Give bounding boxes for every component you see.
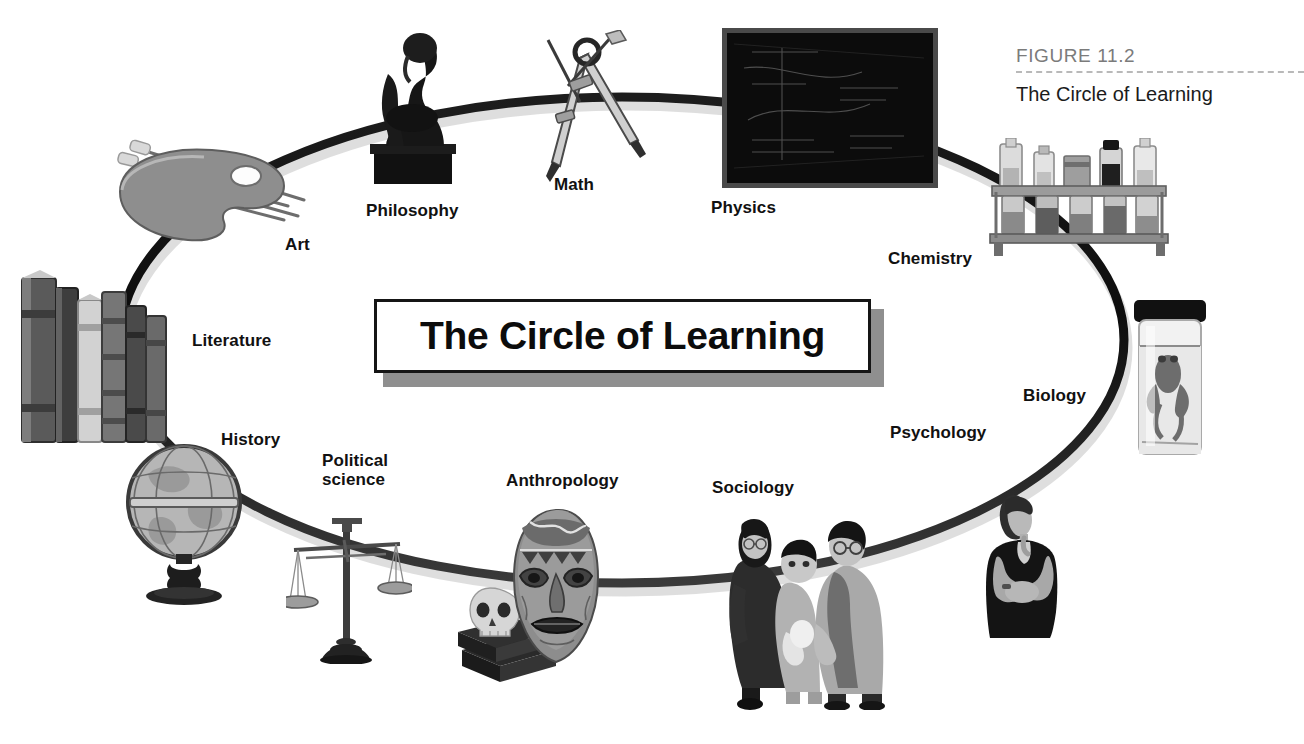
label-political-science: Political science bbox=[322, 451, 388, 489]
label-chemistry: Chemistry bbox=[888, 249, 972, 268]
label-sociology: Sociology bbox=[712, 478, 794, 497]
figure-dashed-rule bbox=[1016, 71, 1304, 73]
art-image-palette bbox=[108, 120, 328, 250]
chemistry-image-test-tube-rack bbox=[986, 138, 1172, 260]
banner-title: The Circle of Learning bbox=[420, 314, 825, 358]
figure-number: FIGURE 11.2 bbox=[1016, 46, 1304, 67]
math-image-compass bbox=[494, 30, 674, 190]
banner-face: The Circle of Learning bbox=[374, 299, 871, 373]
figure-canvas: The Circle of Learning Art Philosophy Ma… bbox=[0, 0, 1304, 744]
political-science-image-balance-scale bbox=[286, 510, 412, 664]
figure-caption: The Circle of Learning bbox=[1016, 82, 1304, 106]
figure-caption-block: FIGURE 11.2 The Circle of Learning bbox=[1016, 46, 1304, 106]
label-history: History bbox=[221, 430, 280, 449]
label-biology: Biology bbox=[1023, 386, 1086, 405]
literature-image-books bbox=[16, 258, 172, 448]
history-image-globe bbox=[118, 438, 250, 608]
center-banner: The Circle of Learning bbox=[374, 299, 875, 377]
label-physics: Physics bbox=[711, 198, 776, 217]
physics-image-chalkboard bbox=[722, 28, 938, 192]
psychology-image-woman bbox=[962, 492, 1082, 638]
label-anthropology: Anthropology bbox=[506, 471, 619, 490]
anthropology-image-mask bbox=[452, 500, 642, 696]
sociology-image-family bbox=[716, 512, 896, 710]
biology-image-specimen-jar bbox=[1126, 300, 1214, 460]
label-art: Art bbox=[285, 235, 310, 254]
label-literature: Literature bbox=[192, 331, 271, 350]
philosophy-image-thinker-statue bbox=[358, 22, 468, 190]
label-psychology: Psychology bbox=[890, 423, 986, 442]
label-philosophy: Philosophy bbox=[366, 201, 459, 220]
label-math: Math bbox=[554, 175, 594, 194]
